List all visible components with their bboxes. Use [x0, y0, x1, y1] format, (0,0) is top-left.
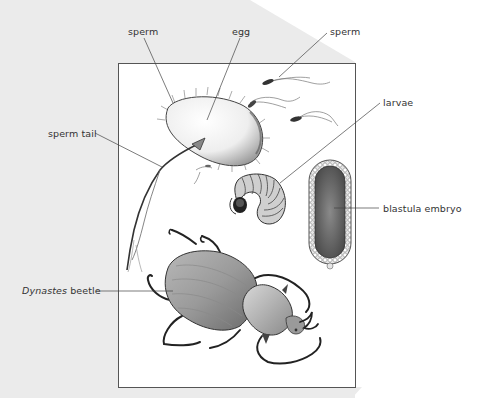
label-sperm-left: sperm	[128, 26, 158, 37]
label-beetle-genus: Dynastes	[22, 285, 67, 296]
label-blastula-embryo: blastula embryo	[383, 203, 462, 214]
label-egg: egg	[232, 26, 250, 37]
blastula-embryo-illustration	[309, 160, 351, 269]
diagram-stage: sperm egg sperm sperm tail larvae blastu…	[0, 0, 482, 398]
background-panel-bottom-fade	[340, 387, 362, 398]
label-sperm-tail: sperm tail	[48, 128, 97, 139]
diagram-canvas	[0, 0, 482, 398]
label-sperm-right: sperm	[330, 26, 360, 37]
label-beetle-word: beetle	[70, 285, 101, 296]
label-dynastes-beetle: Dynastes beetle	[22, 285, 101, 296]
label-larvae: larvae	[383, 97, 413, 108]
